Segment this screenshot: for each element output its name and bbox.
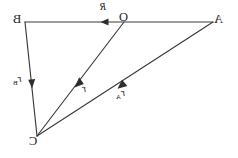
vector-label-rA: rA bbox=[116, 88, 125, 101]
vertex-label-A: A bbox=[214, 13, 223, 26]
vector-label-rB: rB bbox=[13, 74, 22, 87]
vector-rB-arrowhead bbox=[28, 79, 35, 89]
vector-label-rA-subscript: A bbox=[116, 93, 121, 101]
vector-diagram-figure: B A C O R r rA rB bbox=[0, 0, 238, 158]
vector-R-arrowhead bbox=[101, 19, 109, 26]
vector-label-rA-base: r bbox=[121, 87, 125, 98]
point-label-O: O bbox=[119, 11, 128, 24]
vertex-label-C: C bbox=[29, 135, 37, 148]
vector-label-r: r bbox=[82, 84, 86, 94]
vector-label-rB-base: r bbox=[18, 73, 22, 84]
vertex-label-B: B bbox=[13, 13, 21, 26]
vector-r-line bbox=[37, 22, 124, 136]
vector-label-rB-subscript: B bbox=[13, 79, 18, 87]
vector-label-R: R bbox=[100, 2, 106, 12]
segment-CA bbox=[37, 22, 213, 136]
